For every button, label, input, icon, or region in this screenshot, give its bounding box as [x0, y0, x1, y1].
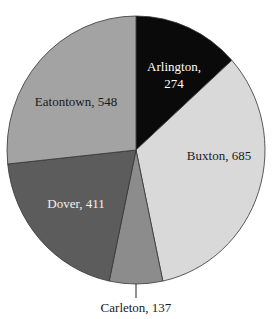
pie-chart: Arlington, 274 Buxton, 685 Carleton, 137…	[0, 0, 279, 319]
label-dover: Dover, 411	[47, 196, 104, 211]
label-carleton: Carleton, 137	[101, 300, 172, 315]
label-buxton: Buxton, 685	[187, 148, 251, 163]
label-eatontown: Eatontown, 548	[35, 94, 117, 109]
label-arlington-line1: Arlington,	[147, 59, 201, 74]
label-arlington-line2: 274	[164, 76, 184, 91]
slice-eatontown	[7, 16, 136, 164]
